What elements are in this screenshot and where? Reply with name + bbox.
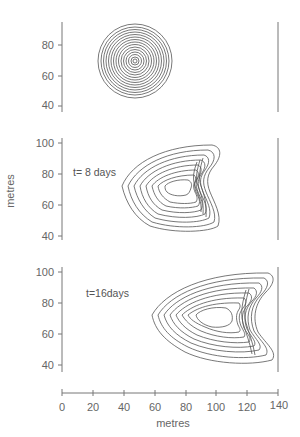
panel-16-days: 100 80 60 40 t=16days bbox=[36, 266, 278, 372]
y-tick-label: 100 bbox=[36, 266, 54, 278]
x-tick-label: 20 bbox=[87, 401, 99, 413]
y-tick-label: 40 bbox=[42, 230, 54, 242]
time-label-16-days: t=16days bbox=[86, 287, 129, 299]
y-tick-label: 40 bbox=[42, 359, 54, 371]
y-tick-label: 60 bbox=[42, 328, 54, 340]
y-axis-label: metres bbox=[4, 174, 16, 208]
contours-panel-1 bbox=[98, 24, 172, 98]
x-tick-label: 80 bbox=[180, 401, 192, 413]
x-axis-label: metres bbox=[156, 417, 190, 429]
figure-canvas: 80 60 40 100 80 60 40 bbox=[0, 0, 300, 437]
x-axis: 0 20 40 60 80 100 120 140 metres bbox=[59, 389, 288, 429]
y-tick-label: 60 bbox=[42, 70, 54, 82]
y-tick-label: 80 bbox=[42, 39, 54, 51]
x-tick-label: 140 bbox=[270, 399, 288, 411]
x-tick-label: 60 bbox=[149, 401, 161, 413]
y-tick-label: 40 bbox=[42, 99, 54, 111]
panel-8-days: 100 80 60 40 t= 8 days bbox=[36, 137, 278, 242]
y-tick-label: 100 bbox=[36, 137, 54, 149]
y-tick-label: 80 bbox=[42, 168, 54, 180]
x-tick-label: 40 bbox=[118, 401, 130, 413]
panel-initial: 80 60 40 bbox=[42, 22, 278, 112]
x-tick-label: 120 bbox=[238, 401, 256, 413]
y-tick-label: 80 bbox=[42, 297, 54, 309]
y-tick-label: 60 bbox=[42, 199, 54, 211]
x-tick-label: 0 bbox=[59, 401, 65, 413]
x-tick-label: 100 bbox=[207, 401, 225, 413]
time-label-8-days: t= 8 days bbox=[73, 166, 116, 178]
contours-panel-2 bbox=[122, 145, 220, 231]
contours-panel-3 bbox=[152, 273, 274, 363]
